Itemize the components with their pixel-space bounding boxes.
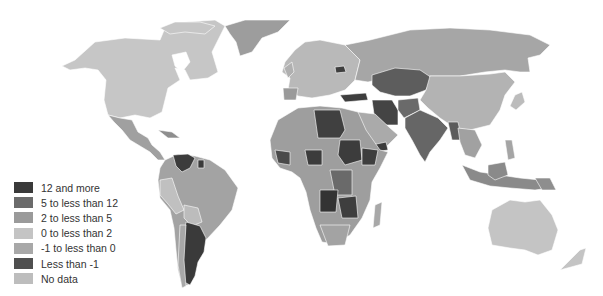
legend-swatch (14, 212, 33, 223)
region-north-america[interactable] (62, 20, 225, 118)
legend-swatch (14, 258, 33, 269)
region-mexico[interactable] (108, 115, 165, 160)
legend-label: 12 and more (41, 182, 100, 194)
legend-label: 5 to less than 12 (41, 197, 118, 209)
legend-item-2-to-5: 2 to less than 5 (14, 210, 118, 225)
legend-label: 2 to less than 5 (41, 212, 112, 224)
region-japan[interactable] (510, 92, 525, 110)
legend-label: Less than -1 (41, 258, 99, 270)
region-philippines[interactable] (505, 140, 515, 160)
legend-label: 0 to less than 2 (41, 227, 112, 239)
region-ethiopia[interactable] (362, 148, 378, 165)
region-madagascar[interactable] (373, 202, 382, 228)
legend-item-12-and-more: 12 and more (14, 180, 118, 195)
region-iberia[interactable] (283, 88, 298, 100)
region-southeast-asia[interactable] (458, 128, 482, 158)
legend-item-less-than-minus1: Less than -1 (14, 256, 118, 271)
legend-swatch (14, 273, 33, 284)
region-angola[interactable] (320, 190, 338, 212)
legend-item-5-to-12: 5 to less than 12 (14, 195, 118, 210)
region-belarus[interactable] (335, 66, 346, 73)
legend-label: -1 to less than 0 (41, 242, 116, 254)
region-guyana[interactable] (198, 160, 204, 168)
legend-item-0-to-2: 0 to less than 2 (14, 226, 118, 241)
legend-swatch (14, 228, 33, 239)
map-legend: 12 and more 5 to less than 12 2 to less … (14, 180, 118, 286)
region-turkey[interactable] (340, 93, 368, 102)
legend-swatch (14, 182, 33, 193)
region-new-zealand[interactable] (560, 248, 586, 270)
legend-item-minus1-to-0: -1 to less than 0 (14, 241, 118, 256)
region-south-africa[interactable] (320, 225, 350, 246)
legend-item-no-data: No data (14, 271, 118, 286)
legend-swatch (14, 243, 33, 254)
region-central-asia[interactable] (372, 68, 432, 96)
region-greenland[interactable] (225, 20, 290, 56)
region-north-africa-dark[interactable] (314, 110, 345, 138)
legend-label: No data (41, 273, 78, 285)
region-australia[interactable] (488, 200, 558, 255)
region-nigeria[interactable] (305, 150, 322, 165)
legend-swatch (14, 197, 33, 208)
